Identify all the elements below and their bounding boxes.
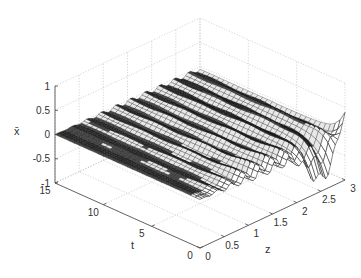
t-tick-label: 0: [187, 250, 193, 261]
z-tick-label: 2.5: [322, 194, 336, 205]
value-tick-label: 0.5: [36, 105, 50, 116]
z-tick-label: 1: [254, 228, 260, 239]
z-tick-label: 2: [302, 206, 308, 217]
value-tick-label: -0.5: [33, 153, 51, 164]
z-axis-label: x̄: [14, 125, 20, 137]
t-axis-label: t: [131, 239, 134, 251]
t-tick-label: 5: [139, 228, 145, 239]
surface-plot: -1-0.500.5105101500.511.522.53 x̄ t z: [0, 0, 361, 278]
x-axis-label: z: [265, 243, 271, 255]
z-tick-label: 3: [350, 183, 356, 194]
value-tick-label: 0: [44, 129, 50, 140]
z-tick-label: 0.5: [225, 240, 239, 251]
value-tick-label: 1: [44, 81, 50, 92]
t-tick-label: 10: [88, 207, 100, 218]
t-tick-label: 15: [39, 185, 51, 196]
surface-mesh: [55, 69, 345, 199]
z-tick-label: 1.5: [274, 217, 288, 228]
z-tick-label: 0: [205, 251, 211, 262]
